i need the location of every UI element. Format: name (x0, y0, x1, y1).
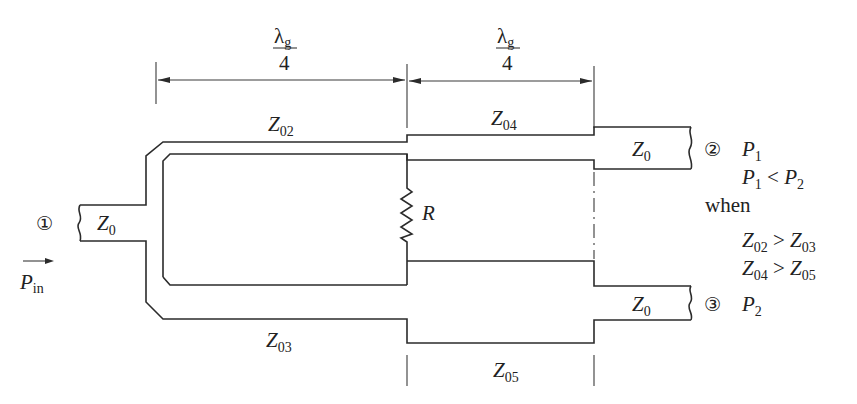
port3-break-icon (689, 286, 692, 320)
input-power-label: Pin (19, 270, 44, 296)
port1-number: ① (36, 212, 53, 234)
outer-bottom-conductor (80, 241, 691, 343)
arrowhead-icon (45, 258, 54, 264)
port1-impedance: Z0 (97, 211, 116, 238)
port-3: Z0 ③ P2 (632, 292, 762, 319)
when-label: when (705, 193, 751, 217)
port2-impedance: Z0 (632, 137, 651, 164)
outer-top-conductor (80, 127, 691, 205)
circuit-outline (78, 127, 692, 386)
svg-text:4: 4 (502, 51, 513, 75)
svg-text:λg: λg (274, 24, 291, 50)
svg-text:λg: λg (497, 24, 514, 50)
resistor (401, 154, 412, 285)
arrowhead-left-icon (409, 78, 421, 84)
port3-impedance: Z0 (632, 292, 651, 319)
port3-number: ③ (704, 293, 721, 315)
dimension-label-1: λg 4 (273, 24, 297, 75)
condition-z04-z05: Z04 > Z05 (742, 256, 816, 283)
port1-break-icon (78, 205, 81, 241)
resistor-label: R (421, 201, 435, 225)
svg-text:4: 4 (279, 51, 290, 75)
arrowhead-right-icon (393, 77, 405, 83)
port-1: ① Z0 (36, 211, 116, 238)
conditions: P1 < P2 when Z02 > Z03 Z04 > Z05 (705, 165, 816, 283)
port2-break-icon (689, 127, 692, 169)
z05-top-conductor (407, 261, 691, 286)
port2-power: P1 (741, 137, 762, 164)
dimension-label-2: λg 4 (496, 24, 520, 75)
dimension-markers: λg 4 λg 4 (156, 24, 594, 128)
port3-power: P2 (741, 292, 762, 319)
condition-z02-z03: Z02 > Z03 (742, 228, 816, 255)
z05-label: Z05 (493, 358, 519, 385)
input-power: Pin (19, 258, 54, 296)
z03-label: Z03 (266, 328, 292, 355)
resistor-zigzag-icon (401, 154, 412, 285)
inner-bottom-conductor (163, 277, 407, 285)
z02-label: Z02 (268, 112, 294, 139)
arrowhead-right-icon (580, 78, 592, 84)
port-2: Z0 ② P1 (632, 137, 762, 164)
z04-label: Z04 (491, 106, 517, 133)
port2-number: ② (704, 138, 721, 160)
arrowhead-left-icon (158, 77, 170, 83)
power-relation: P1 < P2 (741, 165, 804, 192)
power-divider-diagram: λg 4 λg 4 Z02 Z04 (0, 0, 857, 404)
